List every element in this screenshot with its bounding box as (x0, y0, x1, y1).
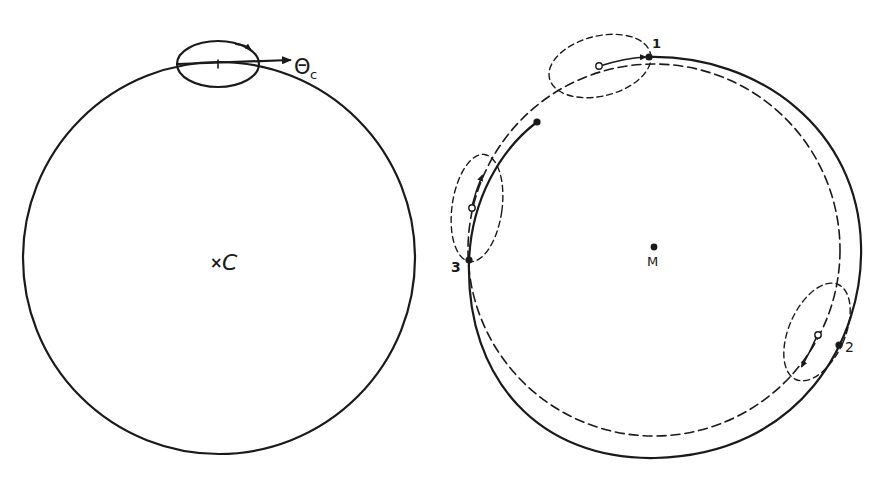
left-panel: Θ c × C (23, 41, 415, 454)
orbit-end-dot (533, 118, 540, 125)
point-1-dot (645, 53, 652, 60)
point-2-dot (835, 341, 842, 348)
center-m-dot (651, 244, 658, 251)
epicycle-3-center (469, 205, 475, 211)
epicycle-2-center (815, 332, 821, 338)
actual-orbit-solid (469, 57, 861, 458)
theta-c-label: Θ c (294, 55, 317, 82)
point-3-dot (465, 256, 472, 263)
point-3-label: 3 (451, 259, 461, 275)
center-label-m: M (647, 254, 658, 269)
svg-text:c: c (310, 67, 317, 82)
svg-text:Θ: Θ (294, 55, 311, 79)
epicycle-direction-arrow (236, 44, 250, 49)
epicycle-2-radius (802, 336, 817, 366)
epicycle-1-center (596, 63, 602, 69)
point-2-label: 2 (845, 339, 854, 355)
point-1-label: 1 (652, 36, 661, 51)
orbit-diagram: Θ c × C 1 2 3 M (0, 0, 892, 481)
center-marker-x: × (210, 254, 223, 272)
right-panel: 1 2 3 M (445, 24, 864, 458)
center-label-c: C (222, 250, 238, 275)
